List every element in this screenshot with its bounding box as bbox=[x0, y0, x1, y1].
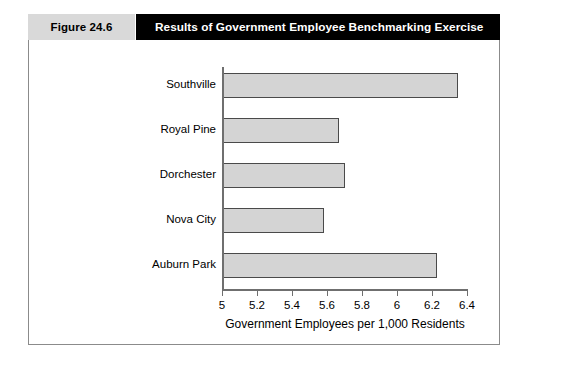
tick-label-6.4: 6.4 bbox=[459, 299, 475, 311]
tick-mark-6.2 bbox=[432, 290, 433, 296]
tick-mark-5.2 bbox=[257, 290, 258, 296]
bar-royal-pine bbox=[222, 118, 339, 143]
bar-auburn-park bbox=[222, 253, 437, 278]
category-label-auburn-park: Auburn Park bbox=[152, 258, 216, 270]
tick-label-6: 6 bbox=[394, 299, 400, 311]
chart-area: SouthvilleRoyal PineDorchesterNova CityA… bbox=[29, 41, 499, 344]
tick-mark-5 bbox=[222, 290, 223, 296]
tick-mark-6.4 bbox=[467, 290, 468, 296]
figure-number-cell: Figure 24.6 bbox=[28, 14, 136, 40]
figure-header: Figure 24.6 Results of Government Employ… bbox=[28, 14, 500, 40]
tick-label-5.6: 5.6 bbox=[319, 299, 335, 311]
x-axis-title: Government Employees per 1,000 Residents bbox=[222, 317, 468, 331]
figure-title-label: Results of Government Employee Benchmark… bbox=[155, 20, 483, 34]
category-axis-line bbox=[222, 67, 224, 290]
bar-nova-city bbox=[222, 208, 324, 233]
tick-mark-5.6 bbox=[327, 290, 328, 296]
category-label-nova-city: Nova City bbox=[166, 213, 216, 225]
tick-label-5: 5 bbox=[219, 299, 225, 311]
bar-dorchester bbox=[222, 163, 345, 188]
figure-number-label: Figure 24.6 bbox=[51, 21, 113, 33]
tick-mark-5.8 bbox=[362, 290, 363, 296]
tick-mark-5.4 bbox=[292, 290, 293, 296]
tick-label-5.4: 5.4 bbox=[284, 299, 300, 311]
tick-label-5.8: 5.8 bbox=[354, 299, 370, 311]
tick-label-6.2: 6.2 bbox=[424, 299, 440, 311]
tick-label-5.2: 5.2 bbox=[249, 299, 265, 311]
figure-title-cell: Results of Government Employee Benchmark… bbox=[136, 14, 500, 40]
category-label-dorchester: Dorchester bbox=[160, 168, 216, 180]
tick-mark-6 bbox=[397, 290, 398, 296]
category-label-royal-pine: Royal Pine bbox=[160, 123, 216, 135]
bar-chart-plot: SouthvilleRoyal PineDorchesterNova CityA… bbox=[29, 41, 499, 344]
category-label-southville: Southville bbox=[166, 78, 216, 90]
bar-southville bbox=[222, 73, 458, 98]
